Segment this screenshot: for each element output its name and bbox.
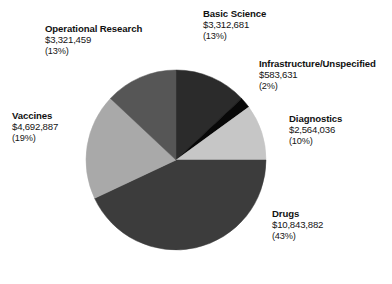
- slice-label-diagnostics-percent: (10%): [289, 136, 342, 147]
- slice-label-operational-research-name: Operational Research: [45, 23, 142, 34]
- slice-label-diagnostics-value: $2,564,036: [289, 124, 342, 135]
- slice-label-drugs-percent: (43%): [272, 231, 323, 242]
- pie-slice-group: [86, 70, 266, 250]
- slice-label-vaccines-value: $4,692,887: [12, 121, 58, 132]
- slice-label-basic-science-value: $3,312,681: [203, 19, 266, 30]
- slice-label-diagnostics: Diagnostics $2,564,036 (10%): [289, 113, 342, 146]
- slice-label-operational-research-percent: (13%): [45, 46, 142, 57]
- slice-label-vaccines: Vaccines $4,692,887 (19%): [12, 110, 58, 143]
- slice-label-operational-research-value: $3,321,459: [45, 34, 142, 45]
- slice-label-vaccines-percent: (19%): [12, 133, 58, 144]
- slice-label-infrastructure: Infrastructure/Unspecified $583,631 (2%): [259, 58, 376, 91]
- slice-label-drugs-value: $10,843,882: [272, 219, 323, 230]
- slice-label-basic-science-percent: (13%): [203, 31, 266, 42]
- slice-label-drugs-name: Drugs: [272, 208, 323, 219]
- pie-chart: Basic Science $3,312,681 (13%) Operation…: [0, 0, 392, 284]
- slice-label-basic-science: Basic Science $3,312,681 (13%): [203, 8, 266, 41]
- slice-label-infrastructure-value: $583,631: [259, 69, 376, 80]
- slice-label-infrastructure-percent: (2%): [259, 81, 376, 92]
- slice-label-basic-science-name: Basic Science: [203, 8, 266, 19]
- slice-label-operational-research: Operational Research $3,321,459 (13%): [45, 23, 142, 56]
- slice-label-drugs: Drugs $10,843,882 (43%): [272, 208, 323, 241]
- slice-label-infrastructure-name: Infrastructure/Unspecified: [259, 58, 376, 69]
- slice-label-vaccines-name: Vaccines: [12, 110, 58, 121]
- slice-label-diagnostics-name: Diagnostics: [289, 113, 342, 124]
